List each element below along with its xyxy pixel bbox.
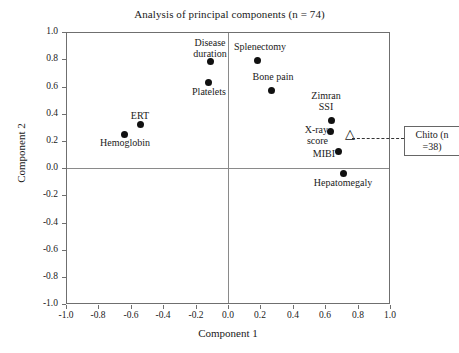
x-tick-label: 0.4 (276, 310, 310, 320)
x-tick-mark (228, 305, 229, 309)
x-tick-mark (98, 305, 99, 309)
data-point-ert[interactable] (137, 121, 144, 128)
x-tick-mark (325, 305, 326, 309)
point-label-bone-pain: Bone pain (242, 71, 304, 82)
y-tick-mark (62, 304, 66, 305)
y-tick-label: -0.8 (16, 271, 58, 281)
pca-scatter-figure: Analysis of principal components (n = 74… (0, 0, 459, 353)
x-tick-mark (358, 305, 359, 309)
x-tick-mark (66, 305, 67, 309)
x-tick-mark (131, 305, 132, 309)
x-tick-label: -0.4 (146, 310, 180, 320)
x-tick-label: -1.0 (49, 310, 83, 320)
x-tick-label: -0.8 (81, 310, 115, 320)
point-label-xray-score: X-ray score (290, 124, 328, 146)
point-label-hemoglobin: Hemoglobin (88, 137, 162, 148)
x-tick-label: 0.6 (308, 310, 342, 320)
data-point-zimran-ssi[interactable] (328, 117, 335, 124)
y-tick-label: 1.0 (16, 26, 58, 36)
x-tick-label: 1.0 (373, 310, 407, 320)
x-tick-label: 0.8 (341, 310, 375, 320)
x-tick-mark (196, 305, 197, 309)
point-label-mibi: MIBI (303, 148, 335, 159)
x-tick-label: -0.2 (179, 310, 213, 320)
x-tick-label: 0.0 (211, 310, 245, 320)
y-tick-label: -1.0 (16, 298, 58, 308)
horizontal-zero-axis (67, 168, 389, 169)
x-tick-mark (163, 305, 164, 309)
x-tick-mark (260, 305, 261, 309)
x-axis-label: Component 1 (66, 327, 390, 339)
point-label-ert: ERT (119, 110, 161, 121)
point-label-splenectomy: Splenectomy (224, 41, 296, 52)
x-tick-label: -0.6 (114, 310, 148, 320)
x-tick-mark (293, 305, 294, 309)
plot-area (66, 32, 390, 304)
chart-title: Analysis of principal components (n = 74… (0, 8, 459, 20)
point-label-zimran-ssi: Zimran SSI (300, 90, 352, 112)
chito-callout-box: Chito (n =38) (404, 126, 459, 156)
y-axis-label: Component 2 (15, 83, 27, 223)
point-label-hepatomegaly: Hepatomegaly (297, 177, 389, 188)
x-tick-label: 0.2 (243, 310, 277, 320)
y-tick-label: -0.6 (16, 244, 58, 254)
x-tick-mark (390, 305, 391, 309)
y-tick-label: 0.8 (16, 53, 58, 63)
point-label-platelets: Platelets (175, 86, 243, 97)
chito-leader-line (352, 138, 404, 140)
data-point-hepatomegaly[interactable] (340, 170, 347, 177)
data-point-platelets[interactable] (205, 79, 212, 86)
